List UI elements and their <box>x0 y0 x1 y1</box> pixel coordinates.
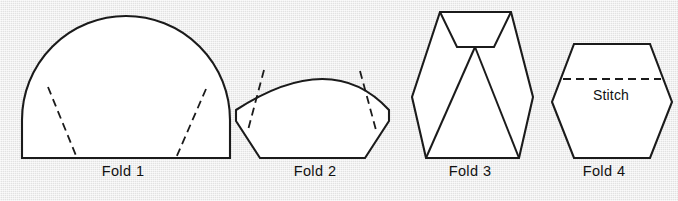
figure-fold-4: Stitch Fold 4 <box>552 44 672 179</box>
fold-4-caption: Fold 4 <box>583 163 626 179</box>
fold-diagram-svg: Fold 1 Fold 2 Fold 3 Stitch Fold 4 <box>0 0 678 201</box>
fold-diagram-canvas: Fold 1 Fold 2 Fold 3 Stitch Fold 4 <box>0 0 678 201</box>
fold-4-stitch-label: Stitch <box>593 87 629 103</box>
fold-3-outline <box>412 12 533 158</box>
fold-2-caption: Fold 2 <box>294 163 337 179</box>
fold-3-caption: Fold 3 <box>449 163 492 179</box>
figure-fold-2: Fold 2 <box>236 70 389 179</box>
figure-fold-1: Fold 1 <box>22 16 230 179</box>
fold-1-caption: Fold 1 <box>102 163 145 179</box>
fold-1-outline <box>22 16 230 158</box>
figure-fold-3: Fold 3 <box>412 12 533 179</box>
